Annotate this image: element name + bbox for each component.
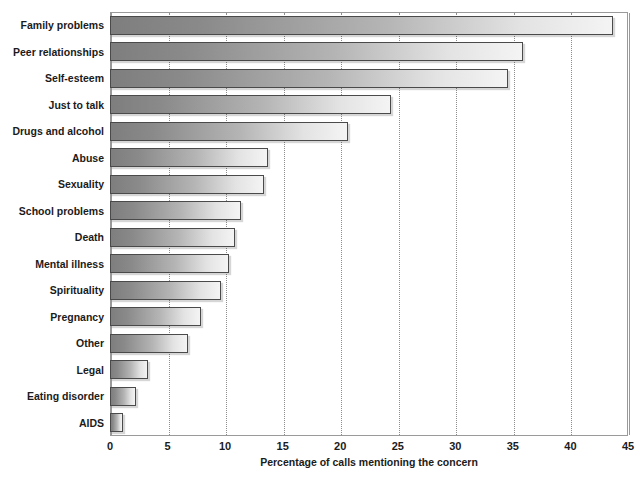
category-axis-labels: Family problemsPeer relationshipsSelf-es… [0,12,104,436]
bar [110,254,229,273]
x-axis-ticks: 051015202530354045 [110,436,628,456]
bar-row [110,12,628,39]
category-label-drugs-and-alcohol: Drugs and alcohol [0,118,104,145]
bar-row [110,39,628,66]
bar [110,148,268,167]
bar [110,360,148,379]
bar-row [110,145,628,172]
category-label-mental-illness: Mental illness [0,251,104,278]
bars-layer [110,12,628,436]
bar-chart: Family problemsPeer relationshipsSelf-es… [0,0,644,479]
bar [110,201,241,220]
category-label-sexuality: Sexuality [0,171,104,198]
bar-row [110,171,628,198]
x-axis-title: Percentage of calls mentioning the conce… [110,456,628,468]
bar-row [110,383,628,410]
bar [110,122,348,141]
bar-row [110,198,628,225]
category-label-legal: Legal [0,357,104,384]
bar-row [110,330,628,357]
x-tick-label-45: 45 [622,440,634,452]
x-tick-label-15: 15 [277,440,289,452]
x-tick-label-10: 10 [219,440,231,452]
x-tick-label-20: 20 [334,440,346,452]
bar-row [110,304,628,331]
bar [110,281,221,300]
category-label-pregnancy: Pregnancy [0,304,104,331]
gridline-45 [629,13,630,435]
category-label-eating-disorder: Eating disorder [0,383,104,410]
bar-row [110,251,628,278]
category-label-family-problems: Family problems [0,12,104,39]
category-label-abuse: Abuse [0,145,104,172]
bar [110,334,188,353]
bar [110,307,201,326]
bar [110,175,264,194]
category-label-death: Death [0,224,104,251]
bar-row [110,277,628,304]
x-tick-label-30: 30 [449,440,461,452]
bar-row [110,224,628,251]
bar [110,16,613,35]
bar [110,95,391,114]
category-label-other: Other [0,330,104,357]
bar [110,387,136,406]
x-tick-label-0: 0 [107,440,113,452]
bar-row [110,92,628,119]
x-tick-label-35: 35 [507,440,519,452]
category-label-peer-relationships: Peer relationships [0,39,104,66]
bar [110,228,235,247]
category-label-school-problems: School problems [0,198,104,225]
bar [110,413,123,432]
bar-row [110,357,628,384]
x-tick-label-5: 5 [164,440,170,452]
bar [110,42,523,61]
bar [110,69,508,88]
bar-row [110,118,628,145]
bar-row [110,65,628,92]
category-label-just-to-talk: Just to talk [0,92,104,119]
category-label-aids: AIDS [0,410,104,437]
x-tick-label-40: 40 [564,440,576,452]
category-label-spirituality: Spirituality [0,277,104,304]
bar-row [110,410,628,437]
x-tick-label-25: 25 [392,440,404,452]
category-label-self-esteem: Self-esteem [0,65,104,92]
